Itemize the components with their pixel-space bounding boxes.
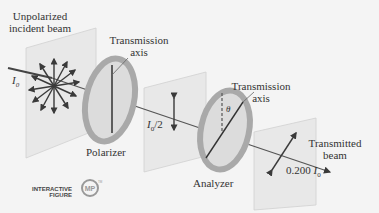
transmission-axis-1-label: Transmission axis xyxy=(104,34,174,58)
intensity-out-label: 0.200 I0 xyxy=(286,164,321,181)
transmission-axis-1-line2: axis xyxy=(104,46,174,58)
transmission-axis-2-line2: axis xyxy=(226,92,296,104)
intensity-mid-label: I0/2 xyxy=(147,118,163,135)
incident-beam-label: Unpolarized incident beam xyxy=(2,10,78,34)
trademark-mark: TM xyxy=(98,180,102,184)
transmitted-beam-line1: Transmitted xyxy=(300,137,370,149)
transmitted-beam-line2: beam xyxy=(300,149,370,161)
svg-text:MP: MP xyxy=(85,185,96,192)
transmission-axis-2-line1: Transmission xyxy=(226,80,296,92)
intensity-in-label: I0 xyxy=(12,74,19,91)
transmission-axis-1-line1: Transmission xyxy=(104,34,174,46)
mp-logo-icon: MP xyxy=(82,180,98,196)
incident-beam-line2: incident beam xyxy=(2,22,78,34)
incident-beam-line1: Unpolarized xyxy=(2,10,78,22)
interactive-figure-badge[interactable]: INTERACTIVE FIGURE xyxy=(32,186,72,198)
polarizer-label: Polarizer xyxy=(86,146,126,158)
theta-label: θ xyxy=(226,103,230,115)
transmission-axis-2-label: Transmission axis xyxy=(226,80,296,104)
transmitted-beam-label: Transmitted beam xyxy=(300,137,370,161)
analyzer-label: Analyzer xyxy=(193,177,233,189)
badge-line2: FIGURE xyxy=(32,192,72,198)
